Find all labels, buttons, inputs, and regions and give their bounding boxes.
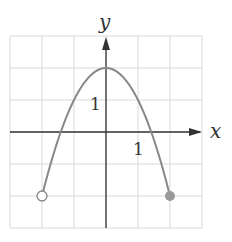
- x-tick-label: 1: [133, 139, 144, 159]
- open-endpoint: [37, 191, 47, 201]
- graph: y x 1 1: [0, 0, 232, 242]
- y-tick-label: 1: [90, 94, 101, 114]
- y-axis-label: y: [98, 10, 111, 34]
- closed-endpoint: [165, 191, 175, 201]
- x-axis-label: x: [210, 119, 221, 143]
